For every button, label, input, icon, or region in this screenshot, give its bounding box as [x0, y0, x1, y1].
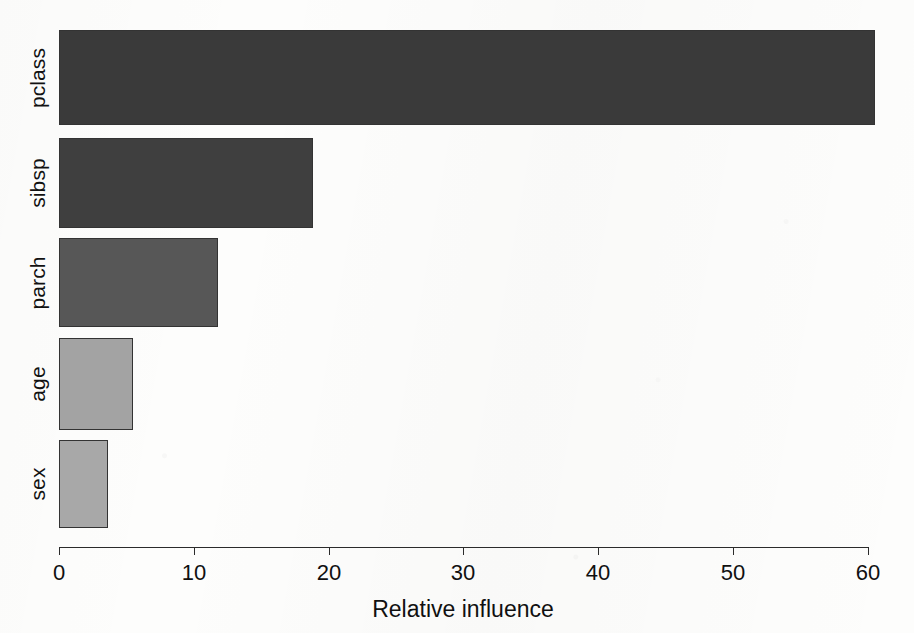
y-axis-label-pclass: pclass — [26, 48, 50, 108]
x-tick-mark-20 — [329, 547, 330, 555]
x-tick-mark-40 — [598, 547, 599, 555]
x-tick-label-0: 0 — [53, 560, 65, 586]
bar-age — [59, 338, 133, 430]
y-axis-label-age: age — [26, 366, 50, 401]
x-tick-mark-0 — [59, 547, 60, 555]
bar-sibsp — [59, 138, 313, 228]
x-tick-label-50: 50 — [721, 560, 745, 586]
x-tick-mark-30 — [463, 547, 464, 555]
bar-pclass — [59, 30, 875, 125]
y-axis-label-sibsp: sibsp — [26, 158, 50, 208]
x-axis-line — [59, 547, 869, 548]
y-axis-label-sex: sex — [26, 468, 50, 501]
x-tick-label-30: 30 — [451, 560, 475, 586]
bar-sex — [59, 440, 108, 528]
x-tick-mark-50 — [733, 547, 734, 555]
relative-influence-bar-chart: pclass sibsp parch age sex 0 10 20 30 40… — [0, 0, 914, 633]
x-axis-title: Relative influence — [372, 596, 554, 623]
x-tick-label-40: 40 — [586, 560, 610, 586]
bar-parch — [59, 238, 218, 327]
y-axis-label-parch: parch — [26, 256, 50, 309]
x-tick-label-10: 10 — [182, 560, 206, 586]
x-tick-mark-60 — [868, 547, 869, 555]
x-tick-label-20: 20 — [317, 560, 341, 586]
x-tick-label-60: 60 — [856, 560, 880, 586]
x-tick-mark-10 — [194, 547, 195, 555]
plot-area: pclass sibsp parch age sex 0 10 20 30 40… — [0, 0, 914, 633]
